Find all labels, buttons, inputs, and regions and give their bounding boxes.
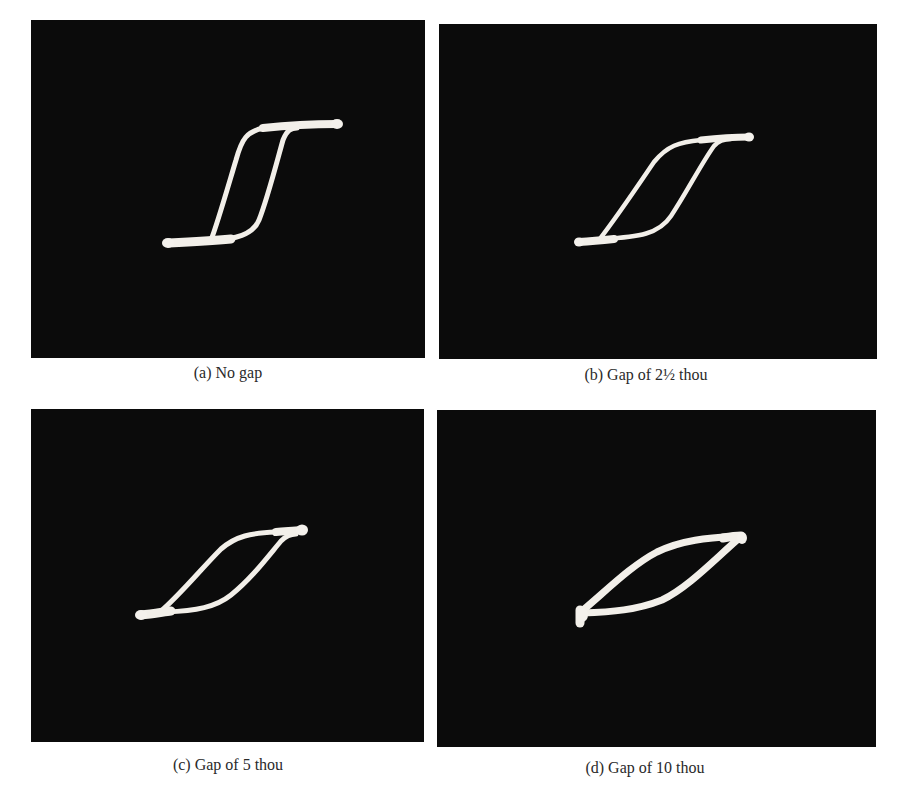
oscilloscope-panel-c [31, 409, 424, 742]
caption-c: (c) Gap of 5 thou [128, 756, 328, 774]
hysteresis-loop-a [31, 20, 425, 358]
trace-end-upper-a [331, 119, 343, 129]
caption-b: (b) Gap of 2½ thou [546, 366, 746, 384]
trace-end-lower-d [576, 608, 588, 622]
trace-end-lower-a [162, 238, 174, 248]
trace-end-upper-b [744, 133, 754, 142]
oscilloscope-panel-d [437, 410, 876, 747]
trace-end-upper-c [296, 525, 308, 536]
caption-d: (d) Gap of 10 thou [545, 759, 745, 777]
trace-end-lower-b [574, 238, 584, 247]
hysteresis-loop-d [437, 410, 876, 747]
trace-end-upper-d [737, 532, 747, 544]
hysteresis-loop-c [31, 409, 424, 742]
hysteresis-loop-b [439, 24, 877, 359]
caption-a: (a) No gap [128, 364, 328, 382]
oscilloscope-panel-b [439, 24, 877, 359]
trace-end-lower-c [135, 610, 147, 620]
oscilloscope-panel-a [31, 20, 425, 358]
